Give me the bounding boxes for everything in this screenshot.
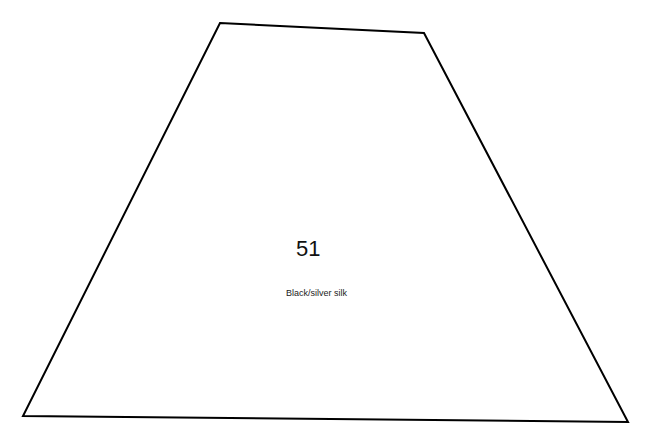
panel-number: 51 bbox=[296, 236, 356, 262]
material-label: Black/silver silk bbox=[286, 288, 347, 298]
trapezoid-outline bbox=[0, 0, 647, 447]
